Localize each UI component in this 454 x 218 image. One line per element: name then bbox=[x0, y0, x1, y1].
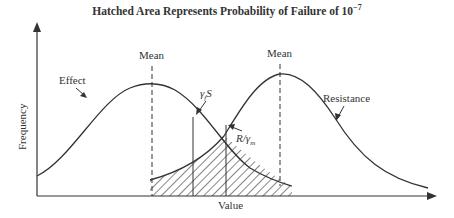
y-axis-label: Frequency bbox=[16, 104, 28, 150]
x-axis-label: Value bbox=[218, 199, 243, 211]
mean-label-right: Mean bbox=[267, 47, 292, 59]
diagram-canvas bbox=[0, 0, 454, 218]
gamma-s-label: γfS bbox=[200, 87, 212, 102]
x-axis-arrow-icon bbox=[427, 192, 437, 200]
resistance-arrow-icon bbox=[335, 113, 341, 121]
resistance-label: Resistance bbox=[323, 92, 370, 104]
failure-area bbox=[150, 136, 292, 196]
mean-label-left: Mean bbox=[139, 49, 164, 61]
r-gamma-label: R/γm bbox=[236, 132, 255, 147]
effect-label: Effect bbox=[59, 74, 86, 86]
y-axis-arrow-icon bbox=[33, 22, 41, 32]
